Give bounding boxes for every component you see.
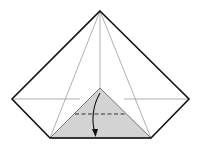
shaded-triangle-flap <box>50 88 151 138</box>
origami-diagram <box>0 0 197 152</box>
